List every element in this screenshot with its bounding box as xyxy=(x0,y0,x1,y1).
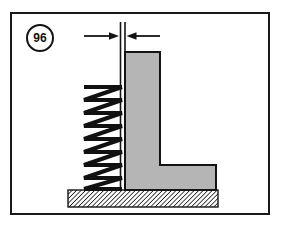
dimension-arrowhead-left xyxy=(109,32,119,40)
l-bracket-body xyxy=(125,52,216,190)
spring-coils xyxy=(84,87,122,189)
ground-group xyxy=(68,190,218,207)
ground-hatch-band xyxy=(68,190,218,207)
l-bracket-group xyxy=(125,52,216,190)
figure-number-badge: 96 xyxy=(26,24,54,52)
coil-spring-group xyxy=(84,87,122,189)
diagram-page: 96 xyxy=(0,0,294,232)
figure-number-label: 96 xyxy=(33,32,47,44)
dimension-arrowhead-right xyxy=(127,32,137,40)
